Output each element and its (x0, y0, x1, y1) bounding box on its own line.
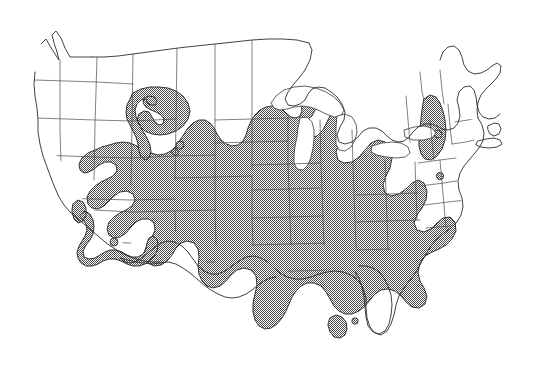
us-distribution-map (0, 0, 549, 369)
distribution-map-figure: Continuous shaded block covering the eas… (0, 0, 549, 369)
outlier-dot-southwest (110, 238, 118, 246)
outlier-dot-upper-midwest (172, 149, 179, 156)
outlier-dot-gulf-coast (352, 318, 358, 324)
outlier-dot-new-england (436, 172, 443, 179)
outlier-dot-central-plains (176, 141, 184, 149)
